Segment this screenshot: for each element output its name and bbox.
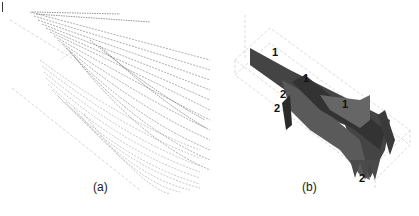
region-label-2: 2: [359, 172, 365, 184]
vector-field-plot: [0, 0, 210, 195]
3d-surface-plot: 1 1 1 2 2 2: [210, 0, 419, 195]
panel-b: 1 1 1 2 2 2 (b): [210, 0, 419, 216]
panel-a: (a): [0, 0, 210, 195]
region-label-1: 1: [303, 72, 309, 84]
region-label-2: 2: [274, 102, 280, 114]
caption-a: (a): [93, 180, 108, 194]
region-label-2: 2: [280, 88, 286, 100]
region-label-1: 1: [342, 98, 348, 110]
region-label-1: 1: [272, 46, 278, 58]
caption-b: (b): [302, 180, 317, 194]
